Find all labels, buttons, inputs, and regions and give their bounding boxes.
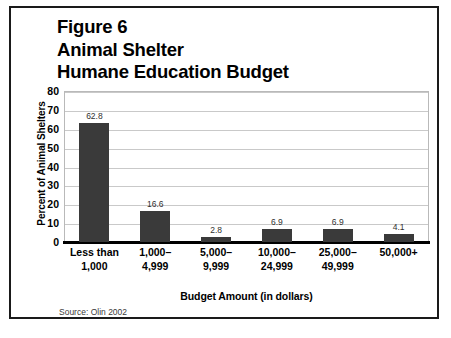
bar-value-label: 4.1 <box>369 223 429 232</box>
bar-value-label: 62.8 <box>64 112 124 121</box>
gridline <box>65 92 428 93</box>
bar <box>384 234 414 242</box>
bar-group: 4.1 <box>384 91 414 242</box>
bar-value-label: 6.9 <box>247 218 307 227</box>
y-axis-tick-label: 70 <box>31 105 59 115</box>
bar <box>262 229 292 242</box>
figure-frame: Figure 6 Animal Shelter Humane Education… <box>9 6 439 319</box>
gridline <box>65 168 428 169</box>
source-note: Source: Olin 2002 <box>59 307 127 317</box>
y-axis-tick-label: 40 <box>31 162 59 172</box>
gridline <box>65 205 428 206</box>
bar <box>201 237 231 242</box>
x-axis-title: Budget Amount (in dollars) <box>64 290 429 302</box>
y-axis-tick-label: 30 <box>31 180 59 190</box>
y-axis-tick-label: 50 <box>31 143 59 153</box>
bar <box>140 211 170 242</box>
bar-group: 2.8 <box>201 91 231 242</box>
gridline <box>65 130 428 131</box>
bar-group: 62.8 <box>79 91 109 242</box>
bar-value-label: 6.9 <box>308 218 368 227</box>
x-axis-tick-label: 50,000+ <box>357 246 441 260</box>
bar <box>79 123 109 242</box>
x-axis-line <box>63 241 430 244</box>
bar-chart: Percent of Animal Shelters 8070605040302… <box>11 8 441 321</box>
y-axis-tick-label: 80 <box>31 86 59 96</box>
bar-group: 16.6 <box>140 91 170 242</box>
y-axis-tick-label: 20 <box>31 199 59 209</box>
bar-value-label: 16.6 <box>125 200 185 209</box>
bar <box>323 229 353 242</box>
y-axis-tick-label: 60 <box>31 124 59 134</box>
bar-group: 6.9 <box>262 91 292 242</box>
bar-value-label: 2.8 <box>186 226 246 235</box>
bar-group: 6.9 <box>323 91 353 242</box>
gridline <box>65 149 428 150</box>
y-axis-tick-label: 10 <box>31 218 59 228</box>
gridline <box>65 186 428 187</box>
